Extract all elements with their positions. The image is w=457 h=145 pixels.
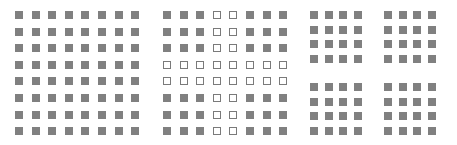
filled-square xyxy=(428,127,436,135)
filled-square xyxy=(339,55,347,63)
filled-square xyxy=(32,127,40,135)
hollow-square xyxy=(213,11,221,19)
filled-square xyxy=(65,28,73,36)
filled-square xyxy=(98,111,106,119)
filled-square xyxy=(196,11,204,19)
hollow-square xyxy=(229,44,237,52)
hollow-square xyxy=(229,11,237,19)
hollow-square xyxy=(180,61,188,69)
filled-square xyxy=(32,77,40,85)
filled-square xyxy=(354,26,362,34)
filled-square xyxy=(413,11,421,19)
hollow-square xyxy=(229,61,237,69)
filled-square xyxy=(115,94,123,102)
filled-square xyxy=(246,127,254,135)
filled-square xyxy=(399,11,407,19)
filled-square xyxy=(263,111,271,119)
hollow-square xyxy=(229,77,237,85)
filled-square xyxy=(131,77,139,85)
filled-square xyxy=(384,112,392,120)
filled-square xyxy=(48,77,56,85)
filled-square xyxy=(310,55,318,63)
hollow-square xyxy=(163,77,171,85)
filled-square xyxy=(131,94,139,102)
filled-square xyxy=(384,83,392,91)
filled-square xyxy=(310,83,318,91)
filled-square xyxy=(15,44,23,52)
filled-square xyxy=(180,28,188,36)
filled-square xyxy=(279,11,287,19)
filled-square xyxy=(384,26,392,34)
filled-square xyxy=(354,127,362,135)
filled-square xyxy=(65,44,73,52)
filled-square xyxy=(246,94,254,102)
hollow-square xyxy=(213,61,221,69)
hollow-square xyxy=(213,94,221,102)
filled-square xyxy=(325,40,333,48)
hollow-square xyxy=(246,61,254,69)
filled-square xyxy=(65,77,73,85)
filled-square xyxy=(354,83,362,91)
filled-square xyxy=(384,55,392,63)
filled-square xyxy=(384,40,392,48)
filled-square xyxy=(310,112,318,120)
filled-square xyxy=(180,11,188,19)
hollow-square xyxy=(279,77,287,85)
filled-square xyxy=(413,127,421,135)
filled-square xyxy=(428,98,436,106)
filled-square xyxy=(48,44,56,52)
filled-square xyxy=(279,94,287,102)
filled-square xyxy=(399,127,407,135)
filled-square xyxy=(263,127,271,135)
filled-square xyxy=(15,61,23,69)
filled-square xyxy=(15,77,23,85)
filled-square xyxy=(413,83,421,91)
filled-square xyxy=(399,112,407,120)
filled-square xyxy=(354,40,362,48)
hollow-square xyxy=(196,77,204,85)
filled-square xyxy=(196,28,204,36)
filled-square xyxy=(339,40,347,48)
filled-square xyxy=(98,94,106,102)
filled-square xyxy=(384,98,392,106)
filled-square xyxy=(32,111,40,119)
filled-square xyxy=(48,127,56,135)
hollow-square xyxy=(213,111,221,119)
filled-square xyxy=(339,11,347,19)
filled-square xyxy=(180,111,188,119)
filled-square xyxy=(279,127,287,135)
filled-square xyxy=(180,94,188,102)
filled-square xyxy=(428,40,436,48)
filled-square xyxy=(48,28,56,36)
filled-square xyxy=(180,127,188,135)
hollow-square xyxy=(229,127,237,135)
filled-square xyxy=(196,127,204,135)
filled-square xyxy=(325,83,333,91)
filled-square xyxy=(413,26,421,34)
filled-square xyxy=(339,127,347,135)
hollow-square xyxy=(279,61,287,69)
filled-square xyxy=(428,83,436,91)
hollow-square xyxy=(229,28,237,36)
filled-square xyxy=(413,40,421,48)
filled-square xyxy=(115,127,123,135)
filled-square xyxy=(399,26,407,34)
filled-square xyxy=(131,111,139,119)
filled-square xyxy=(263,28,271,36)
filled-square xyxy=(246,111,254,119)
filled-square xyxy=(339,98,347,106)
hollow-square xyxy=(196,61,204,69)
filled-square xyxy=(413,98,421,106)
filled-square xyxy=(81,44,89,52)
filled-square xyxy=(32,28,40,36)
filled-square xyxy=(196,94,204,102)
filled-square xyxy=(180,44,188,52)
filled-square xyxy=(48,61,56,69)
filled-square xyxy=(384,127,392,135)
filled-square xyxy=(65,111,73,119)
filled-square xyxy=(246,28,254,36)
filled-square xyxy=(81,127,89,135)
filled-square xyxy=(65,61,73,69)
hollow-square xyxy=(229,111,237,119)
filled-square xyxy=(310,127,318,135)
